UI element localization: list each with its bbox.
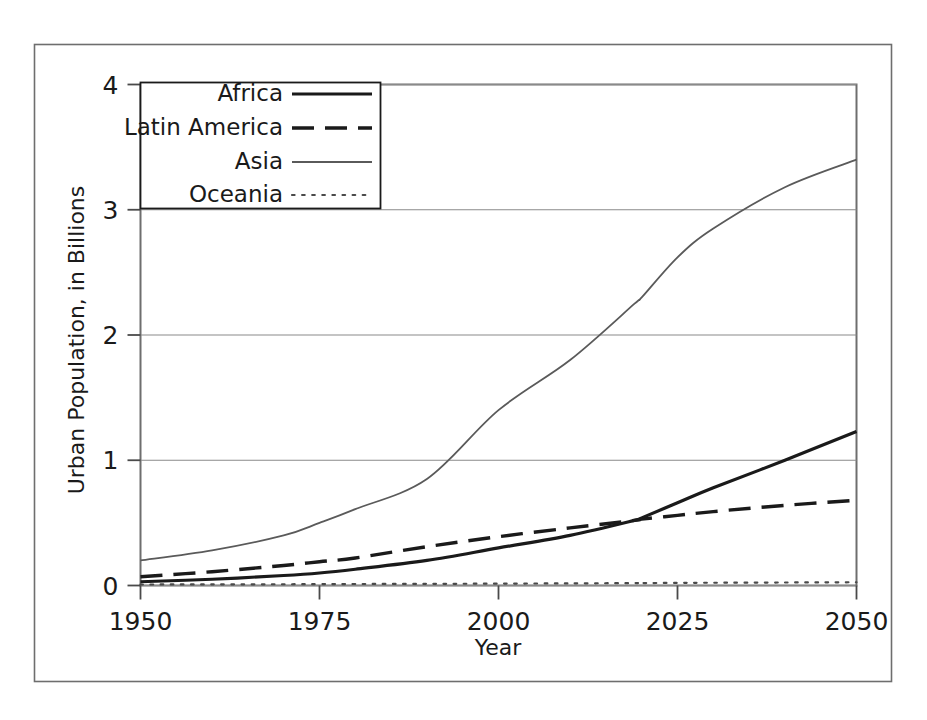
urban-population-line-chart: 01234 19501975200020252050 Year Urban Po… <box>0 0 927 720</box>
chart-legend: AfricaLatin AmericaAsiaOceania <box>124 80 381 209</box>
legend-label-africa: Africa <box>217 80 283 106</box>
y-tick-label: 3 <box>103 196 119 225</box>
y-axis-title: Urban Population, in Billions <box>64 186 89 495</box>
x-tick-label: 2025 <box>646 607 710 636</box>
y-tick-label: 1 <box>103 446 119 475</box>
x-axis-title: Year <box>474 635 523 660</box>
y-tick-label: 2 <box>103 321 119 350</box>
y-tick-label: 4 <box>103 71 119 100</box>
figure-container: 01234 19501975200020252050 Year Urban Po… <box>0 0 927 720</box>
x-tick-label: 1975 <box>288 607 352 636</box>
x-tick-label: 1950 <box>109 607 173 636</box>
legend-label-oceania: Oceania <box>189 181 283 207</box>
x-tick-label: 2000 <box>467 607 531 636</box>
y-tick-label: 0 <box>103 572 119 601</box>
legend-label-asia: Asia <box>235 148 283 174</box>
x-tick-label: 2050 <box>825 607 889 636</box>
legend-label-latin-america: Latin America <box>124 114 283 140</box>
